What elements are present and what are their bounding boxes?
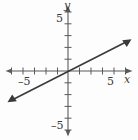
- y-tick-label-negative-five: –5: [51, 120, 64, 131]
- x-axis-label: x: [124, 74, 130, 85]
- graph-canvas: [0, 0, 138, 140]
- coordinate-plane-figure: y x –5 5 5 –5: [0, 0, 138, 140]
- y-tick-label-positive-five: 5: [56, 13, 63, 24]
- x-tick-label-positive-five: 5: [107, 76, 114, 87]
- y-axis-label: y: [64, 0, 70, 11]
- x-tick-label-negative-five: –5: [18, 76, 31, 87]
- y-axis-arrow-down: [65, 130, 70, 137]
